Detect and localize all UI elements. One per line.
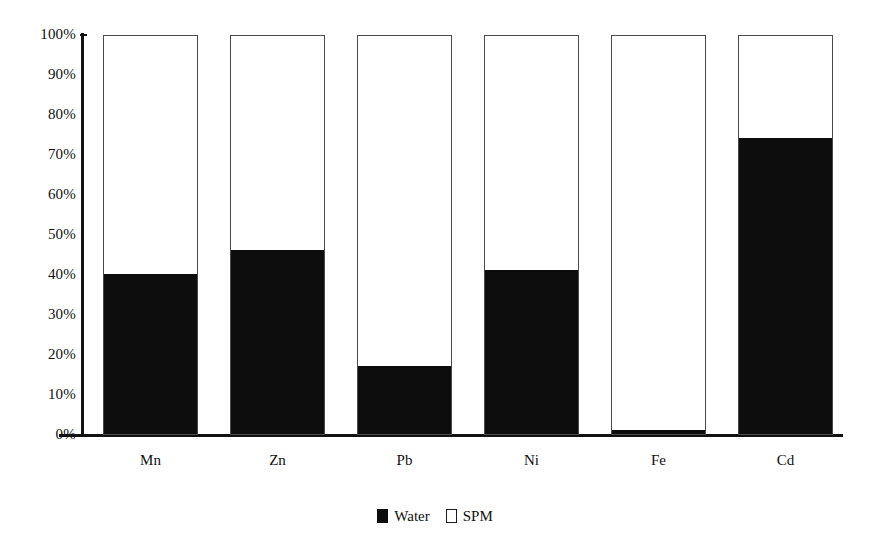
y-axis-tick-10: 10% [16,387,76,402]
bar-segment-spm-cd[interactable] [738,35,833,435]
bar-group-ni[interactable] [484,35,579,435]
y-axis-tick-labels: 0%10%20%30%40%50%60%70%80%90%100% [6,0,76,554]
bar-segment-water-zn[interactable] [231,250,324,434]
y-axis-tick-20: 20% [16,347,76,362]
x-axis-label-zn: Zn [230,452,325,469]
x-axis-label-cd: Cd [738,452,833,469]
bar-segment-water-fe[interactable] [612,430,705,434]
y-axis-tick-80: 80% [16,107,76,122]
chart-legend: Water SPM [0,508,870,524]
x-axis-label-fe: Fe [611,452,706,469]
bar-segment-spm-fe[interactable] [611,35,706,435]
bar-group-mn[interactable] [103,35,198,435]
bar-group-fe[interactable] [611,35,706,435]
bar-segment-water-ni[interactable] [485,270,578,434]
bar-group-zn[interactable] [230,35,325,435]
bars-container [83,35,843,435]
stacked-bar-chart: 0%10%20%30%40%50%60%70%80%90%100% Water … [0,0,870,554]
y-axis-tick-50: 50% [16,227,76,242]
bar-group-pb[interactable] [357,35,452,435]
bar-segment-spm-mn[interactable] [103,35,198,435]
legend-item-water[interactable]: Water [377,508,429,524]
bar-group-cd[interactable] [738,35,833,435]
x-axis-label-pb: Pb [357,452,452,469]
legend-label-spm: SPM [463,508,493,524]
bar-segment-water-pb[interactable] [358,366,451,434]
y-axis-tick-40: 40% [16,267,76,282]
y-axis-tick-70: 70% [16,147,76,162]
x-axis-label-mn: Mn [103,452,198,469]
bar-segment-spm-ni[interactable] [484,35,579,435]
x-axis-label-ni: Ni [484,452,579,469]
y-axis-tick-90: 90% [16,67,76,82]
legend-swatch-water-icon [377,509,388,523]
bar-segment-spm-zn[interactable] [230,35,325,435]
plot-area [83,35,843,435]
y-axis-tick-100: 100% [16,27,76,42]
bar-segment-spm-pb[interactable] [357,35,452,435]
bar-segment-water-cd[interactable] [739,138,832,434]
y-axis-tick-60: 60% [16,187,76,202]
legend-item-spm[interactable]: SPM [446,508,493,524]
legend-label-water: Water [394,508,429,524]
bar-segment-water-mn[interactable] [104,274,197,434]
legend-swatch-spm-icon [446,509,457,523]
y-axis-tick-30: 30% [16,307,76,322]
